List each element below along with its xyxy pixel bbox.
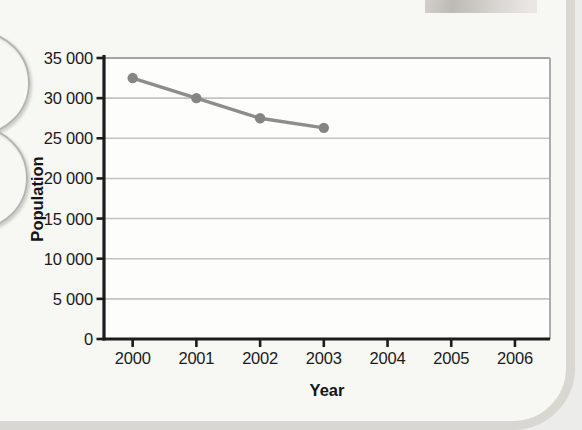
y-tick-label: 35 000 — [0, 49, 93, 67]
y-tick-label: 10 000 — [0, 250, 93, 268]
plot-area — [104, 58, 550, 339]
y-tick-label: 30 000 — [0, 89, 93, 107]
x-tick-label: 2004 — [356, 349, 420, 367]
y-tick-label: 5 000 — [0, 290, 93, 308]
data-point-marker — [255, 113, 265, 123]
x-tick-label: 2000 — [101, 349, 165, 367]
y-tick-label: 15 000 — [0, 210, 93, 228]
data-point-marker — [319, 123, 329, 133]
x-tick-label: 2006 — [483, 349, 547, 367]
x-tick-label: 2002 — [228, 349, 292, 367]
x-tick-label: 2003 — [292, 349, 356, 367]
y-axis-title: Population — [28, 156, 47, 241]
y-tick-label: 25 000 — [0, 129, 93, 147]
y-tick-label: 20 000 — [0, 169, 93, 187]
x-axis-title: Year — [310, 381, 345, 400]
data-point-marker — [191, 93, 201, 103]
x-tick-label: 2001 — [164, 349, 228, 367]
data-point-marker — [127, 73, 137, 83]
y-tick-label: 0 — [0, 330, 93, 348]
x-tick-label: 2005 — [419, 349, 483, 367]
